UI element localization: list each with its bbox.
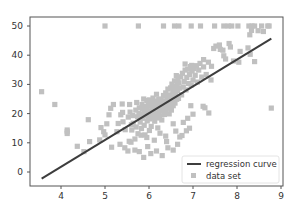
data-point — [104, 121, 109, 126]
data-point — [209, 64, 214, 69]
data-point — [109, 145, 114, 150]
legend-square-icon — [191, 173, 196, 178]
data-point — [202, 105, 207, 110]
data-point — [267, 23, 272, 28]
data-point — [201, 64, 206, 69]
data-point — [198, 23, 203, 28]
data-point — [228, 44, 233, 49]
data-point — [173, 129, 178, 134]
data-point — [111, 102, 116, 107]
data-point — [127, 139, 132, 144]
data-point — [130, 113, 135, 118]
y-tick-label: 0 — [17, 167, 23, 177]
data-point — [185, 116, 190, 121]
data-point — [152, 138, 157, 143]
data-point — [188, 103, 193, 108]
scatter-chart: 456789 01020304050 regression curve data… — [0, 0, 296, 216]
x-tick-label: 7 — [190, 191, 196, 201]
data-points — [39, 23, 274, 160]
data-point — [190, 112, 195, 117]
data-point — [189, 23, 194, 28]
data-point — [245, 45, 250, 50]
data-point — [164, 139, 169, 144]
y-tick-label: 40 — [12, 50, 24, 60]
data-point — [187, 126, 192, 131]
data-point — [223, 56, 228, 61]
data-point — [147, 128, 152, 133]
x-tick-label: 5 — [102, 191, 108, 201]
data-point — [145, 144, 150, 149]
data-point — [86, 117, 91, 122]
data-point — [52, 102, 57, 107]
data-point — [136, 23, 141, 28]
data-point — [220, 48, 225, 53]
legend-label-regression: regression curve — [206, 159, 277, 169]
x-tick-label: 4 — [58, 191, 64, 201]
data-point — [155, 125, 160, 130]
data-point — [154, 148, 159, 153]
data-point — [39, 89, 44, 94]
data-point — [117, 142, 122, 147]
data-point — [106, 112, 111, 117]
data-point — [259, 23, 264, 28]
data-point — [120, 101, 125, 106]
data-point — [120, 110, 125, 115]
y-tick-label: 30 — [12, 79, 24, 89]
data-point — [163, 134, 168, 139]
y-axis: 01020304050 — [12, 21, 30, 177]
data-point — [179, 133, 184, 138]
data-point — [102, 23, 107, 28]
data-point — [120, 119, 125, 124]
data-point — [134, 100, 139, 105]
y-tick-label: 20 — [12, 109, 24, 119]
data-point — [75, 144, 80, 149]
data-point — [189, 63, 194, 68]
y-tick-label: 50 — [12, 21, 24, 31]
data-point — [139, 133, 144, 138]
data-point — [65, 127, 70, 132]
data-point — [127, 102, 132, 107]
x-tick-label: 9 — [278, 191, 284, 201]
data-point — [141, 155, 146, 160]
data-point — [176, 23, 181, 28]
data-point — [148, 151, 153, 156]
data-point — [161, 23, 166, 28]
data-point — [175, 142, 180, 147]
x-tick-label: 6 — [146, 191, 152, 201]
data-point — [134, 124, 139, 129]
data-point — [235, 23, 240, 28]
data-point — [208, 77, 213, 82]
data-point — [183, 61, 188, 66]
data-point — [160, 153, 165, 158]
x-axis: 456789 — [58, 186, 284, 201]
data-point — [238, 49, 243, 54]
y-tick-label: 10 — [12, 138, 24, 148]
x-tick-label: 8 — [234, 191, 240, 201]
data-point — [154, 92, 159, 97]
data-point — [206, 110, 211, 115]
data-point — [229, 23, 234, 28]
data-point — [269, 106, 274, 111]
legend: regression curve data set — [182, 156, 279, 183]
data-point — [132, 136, 137, 141]
data-point — [159, 117, 164, 122]
data-point — [193, 73, 198, 78]
data-point — [132, 148, 137, 153]
data-point — [201, 57, 206, 62]
data-point — [256, 28, 261, 33]
data-point — [252, 59, 257, 64]
data-point — [261, 29, 266, 34]
data-point — [171, 121, 176, 126]
data-point — [196, 68, 201, 73]
data-point — [102, 132, 107, 137]
data-point — [144, 135, 149, 140]
data-point — [171, 148, 176, 153]
legend-label-dataset: data set — [206, 171, 242, 181]
data-point — [87, 139, 92, 144]
data-point — [212, 23, 217, 28]
data-point — [116, 121, 121, 126]
data-point — [249, 28, 254, 33]
data-point — [157, 131, 162, 136]
data-point — [125, 148, 130, 153]
data-point — [165, 145, 170, 150]
